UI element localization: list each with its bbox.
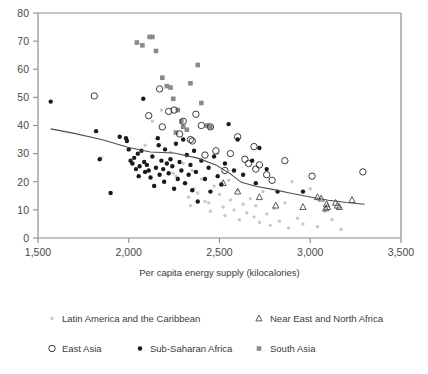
data-point [189, 138, 195, 144]
data-point [254, 181, 258, 185]
data-point [227, 150, 233, 156]
data-point [166, 171, 170, 175]
legend-marker-filled-dot [138, 346, 142, 350]
data-point [171, 96, 176, 101]
data-point [223, 161, 227, 165]
y-tick-label: 40 [17, 119, 29, 131]
axis-labels-layer: 010203040506070801,5002,0002,5003,0003,5… [17, 7, 414, 278]
data-point [140, 43, 145, 48]
data-point [137, 174, 141, 178]
data-point [202, 152, 208, 158]
data-point [188, 81, 193, 86]
data-point [245, 211, 248, 214]
data-point [94, 129, 98, 133]
data-point [300, 204, 306, 210]
data-point [198, 122, 204, 128]
data-point [172, 172, 175, 175]
data-point [256, 194, 262, 200]
data-point [165, 161, 169, 165]
data-point [189, 204, 192, 207]
series-south-asia [135, 35, 213, 135]
data-point [232, 208, 235, 211]
data-point [283, 201, 286, 204]
data-point [253, 166, 259, 172]
data-point [258, 221, 261, 224]
x-tick-label: 1,500 [25, 246, 51, 258]
data-point [179, 168, 183, 172]
x-tick-label: 3,500 [388, 246, 414, 258]
data-point [196, 199, 200, 203]
legend-label: Near East and North Africa [270, 313, 384, 324]
data-point [188, 163, 192, 167]
legend-label: East Asia [62, 343, 102, 354]
data-point [282, 157, 288, 163]
data-point [269, 224, 272, 227]
data-point [174, 142, 178, 146]
data-point [134, 167, 138, 171]
data-point [301, 222, 304, 225]
y-tick-label: 20 [17, 176, 29, 188]
y-tick-label: 10 [17, 204, 29, 216]
data-point [223, 214, 226, 217]
data-point [143, 143, 146, 146]
data-point [159, 124, 165, 130]
data-point [242, 156, 248, 162]
y-tick-label: 80 [17, 7, 29, 19]
data-point [290, 180, 293, 183]
data-point [229, 198, 232, 201]
data-point [265, 212, 268, 215]
data-point [117, 135, 121, 139]
data-point [170, 164, 174, 168]
legend-item-sub-saharan-africa[interactable]: Sub-Saharan Africa [138, 343, 233, 354]
data-point [150, 35, 155, 40]
data-point [137, 164, 141, 168]
data-point [160, 108, 163, 111]
y-tick-label: 0 [23, 232, 29, 244]
series-east-asia [91, 86, 366, 184]
legend-marker-open-triangle [256, 315, 262, 321]
legend-item-latin-america-and-the-caribbean[interactable]: Latin America and the Caribbean [50, 313, 200, 324]
scatter-chart: 010203040506070801,5002,0002,5003,0003,5… [0, 0, 428, 374]
data-point [263, 172, 269, 178]
legend-marker-filled-square [257, 346, 262, 351]
data-point [203, 200, 206, 203]
data-point [309, 173, 315, 179]
data-point [273, 202, 279, 208]
data-point [241, 173, 245, 177]
data-point [135, 40, 140, 45]
data-point [156, 86, 162, 92]
legend-item-south-asia[interactable]: South Asia [257, 343, 316, 354]
data-point [156, 143, 160, 147]
data-point [196, 191, 199, 194]
data-point [151, 120, 154, 123]
data-point [203, 177, 207, 181]
data-point [218, 193, 221, 196]
x-axis-title: Per capita energy supply (kilocalories) [139, 267, 300, 278]
legend-item-near-east-and-north-africa[interactable]: Near East and North Africa [256, 313, 384, 324]
data-point [146, 112, 152, 118]
data-point [150, 154, 154, 158]
data-point [252, 215, 255, 218]
data-point [145, 163, 149, 167]
data-point [269, 177, 275, 183]
data-point [181, 137, 185, 141]
data-point [206, 165, 210, 169]
data-point [309, 187, 312, 190]
data-point [141, 97, 145, 101]
chart-canvas: 010203040506070801,5002,0002,5003,0003,5… [0, 0, 428, 374]
data-point [254, 204, 257, 207]
data-point [227, 179, 230, 182]
data-point [147, 168, 151, 172]
data-point [212, 184, 215, 187]
data-point [157, 173, 161, 177]
data-point [159, 158, 163, 162]
data-point [200, 177, 203, 180]
data-point [238, 218, 241, 221]
data-point [192, 149, 196, 153]
data-point [339, 228, 342, 231]
legend-label: Sub-Saharan Africa [150, 343, 233, 354]
data-point [251, 143, 257, 149]
data-point [195, 63, 200, 68]
data-point [264, 167, 268, 171]
legend-item-east-asia[interactable]: East Asia [49, 343, 103, 354]
